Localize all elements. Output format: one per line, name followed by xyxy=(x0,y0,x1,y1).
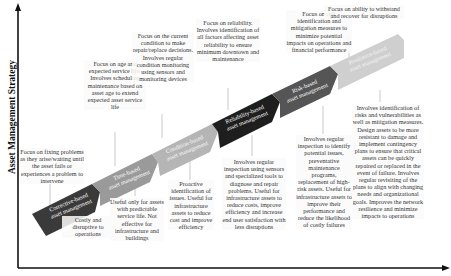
asset-management-diagram: Asset Management Strategy Corrective-bas… xyxy=(0,0,451,276)
y-axis-arrowhead-icon xyxy=(15,3,21,11)
stage-description-below-reliability: Involves regular inspection using sensor… xyxy=(222,158,286,230)
x-axis-arrowhead-icon xyxy=(442,265,450,271)
stage-description-below-corrective: Costly and disruptive to operations xyxy=(62,216,114,238)
stage-description-below-condition: Proactive identification of issues. Usef… xyxy=(168,180,214,230)
stage-description-above-condition: Focus on the current condition to make r… xyxy=(132,32,194,82)
stage-description-below-risk: Involves regular inspection to identify … xyxy=(296,135,352,229)
stage-description-above-resilience: Focus on ability to withstand and recove… xyxy=(324,5,404,19)
stage-description-above-corrective: Focus on fixing problems as they arise/w… xyxy=(20,148,84,184)
stage-description-below-resilience: Involves identification of risks and vul… xyxy=(352,104,424,219)
stage-description-above-reliability: Focus on reliability. Involves identific… xyxy=(196,19,260,62)
y-axis-label: Asset Management Strategy xyxy=(7,53,17,181)
stage-description-below-time: Useful only for assets with predictable … xyxy=(110,198,164,241)
